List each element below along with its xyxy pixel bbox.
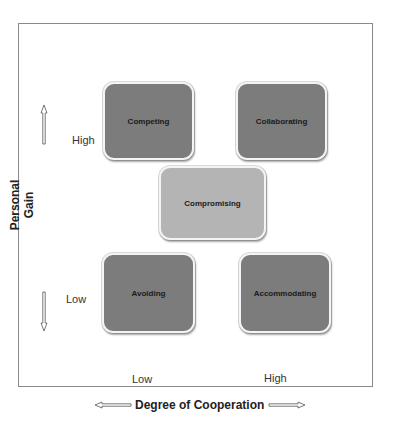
x-axis-label: Degree of Cooperation xyxy=(135,398,264,412)
arrow-down-icon xyxy=(40,291,48,333)
box-label: Avoiding xyxy=(132,289,166,298)
arrow-right-icon xyxy=(268,401,306,409)
box-collaborating: Collaborating xyxy=(236,82,327,160)
arrow-left-icon xyxy=(94,401,132,409)
x-high-label: High xyxy=(264,372,287,384)
y-low-label: Low xyxy=(66,293,86,305)
x-low-label: Low xyxy=(132,373,152,385)
box-avoiding: Avoiding xyxy=(102,253,195,333)
box-label: Competing xyxy=(128,117,170,126)
box-label: Collaborating xyxy=(256,117,308,126)
box-label: Accommodating xyxy=(254,289,317,298)
box-compromising: Compromising xyxy=(159,166,266,240)
box-competing: Competing xyxy=(103,82,194,160)
y-axis-label: Personal Gain xyxy=(8,165,36,245)
arrow-up-icon xyxy=(40,104,48,146)
y-high-label: High xyxy=(72,134,95,146)
box-label: Compromising xyxy=(184,199,240,208)
box-accommodating: Accommodating xyxy=(239,253,331,333)
